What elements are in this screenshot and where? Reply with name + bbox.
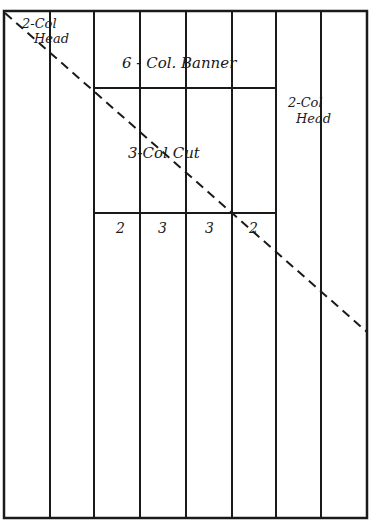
banner-label: 6 - Col. Banner bbox=[122, 54, 237, 72]
bottom-number-3: 3 bbox=[205, 220, 214, 236]
top-left-head-label-line2: Head bbox=[33, 31, 69, 46]
bottom-number-1: 2 bbox=[115, 220, 125, 236]
right-head-label-line1: 2-Col bbox=[287, 95, 323, 110]
top-left-head-label-line1: 2-Col bbox=[21, 16, 57, 31]
cut-label: 3-Col Cut bbox=[128, 144, 201, 162]
right-head-label-line2: Head bbox=[295, 111, 331, 126]
page-layout-diagram: 2-Col Head 6 - Col. Banner 2-Col Head 3-… bbox=[0, 0, 372, 523]
bottom-number-2: 3 bbox=[158, 220, 167, 236]
bottom-number-4: 2 bbox=[248, 220, 258, 236]
